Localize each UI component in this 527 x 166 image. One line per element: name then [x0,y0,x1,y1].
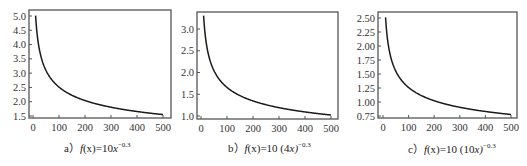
x-tick-label: 500 [503,122,519,133]
x-tick-label: 0 [380,122,385,133]
caption-c: c）f(x)=10 (10x)−0.3 [408,140,496,156]
caption-eq: =10 (10 [440,143,475,155]
y-tick-label: 2.50 [357,13,375,24]
x-tick-label: 100 [401,122,417,133]
caption-base: x) [474,143,483,155]
x-tick-label: 300 [452,122,468,133]
chart-panel-c: 0.751.001.251.501.752.002.252.5001002003… [0,0,527,166]
y-tick-label: 0.75 [357,111,375,122]
x-tick-label: 200 [426,122,442,133]
y-tick-label: 1.00 [357,97,375,108]
y-tick-label: 2.25 [357,27,375,38]
plot-frame [378,12,517,118]
y-tick-label: 2.00 [357,41,375,52]
caption-prefix: c） [408,143,424,155]
caption-exp: −0.3 [483,142,496,150]
curve-line [386,17,511,114]
plot-c: 0.751.001.251.501.752.002.252.5001002003… [0,0,527,130]
caption-arg: (x) [427,143,440,155]
x-tick-label: 400 [478,122,494,133]
y-tick-label: 1.25 [357,83,375,94]
y-tick-label: 1.50 [357,69,375,80]
y-tick-label: 1.75 [357,55,375,66]
